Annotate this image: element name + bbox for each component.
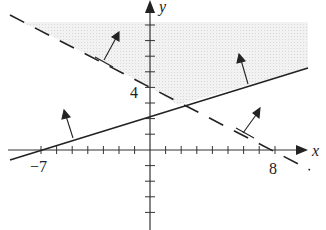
x-axis-arrow-icon: [296, 145, 308, 155]
graph-canvas: y x 4 −7 8: [0, 0, 326, 230]
shaded-region: [20, 22, 308, 105]
inequality-graph: y x 4 −7 8: [0, 0, 326, 230]
y-axis-arrow-icon: [145, 0, 155, 13]
x-tick-8: 8: [269, 160, 277, 177]
y-axis-label: y: [157, 0, 167, 16]
x-tick-neg7: −7: [30, 158, 47, 175]
y-tick-4: 4: [130, 84, 138, 101]
x-axis-label: x: [311, 142, 319, 159]
